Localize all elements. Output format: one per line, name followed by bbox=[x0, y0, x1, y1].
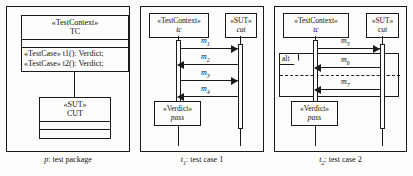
caption-text: : test package bbox=[48, 155, 92, 164]
message-label-m1: m1 bbox=[201, 36, 210, 45]
lifeline-stereotype: «SUT» bbox=[226, 16, 256, 25]
lifeline-stereotype: «SUT» bbox=[367, 16, 398, 25]
message-label-m3: m3 bbox=[201, 68, 210, 77]
class-box-testcontext-header: «TestContext» TC bbox=[22, 16, 128, 40]
message-label-m4: m4 bbox=[201, 84, 210, 93]
message-line-m5 bbox=[318, 48, 380, 49]
lifeline-stereotype: «TestContext» bbox=[284, 16, 348, 25]
caption-test-package: p: test package bbox=[6, 155, 130, 164]
verdict-value: pass bbox=[292, 113, 337, 122]
lifeline-name: tc bbox=[284, 25, 348, 34]
class-operations-compartment bbox=[40, 130, 110, 138]
class-name: TC bbox=[22, 27, 128, 36]
message-arrow-m7 bbox=[314, 86, 321, 94]
class-attributes-compartment bbox=[40, 122, 110, 130]
message-line-m3 bbox=[181, 80, 238, 81]
lifeline-name: tc bbox=[150, 25, 208, 34]
message-arrow-m6 bbox=[314, 64, 321, 72]
fragment-operator-label: alt bbox=[282, 54, 290, 64]
verdict-box: «Verdict» pass bbox=[291, 101, 338, 126]
panel-test-case-2: «TestContext» tc «SUT» cut m5 alt m6 m7 bbox=[274, 6, 407, 152]
uml-figure: «TestContext» TC «TestCase» t1(): Verdic… bbox=[0, 0, 413, 176]
class-name: CUT bbox=[40, 109, 110, 118]
class-attributes-compartment bbox=[22, 40, 128, 48]
class-stereotype: «TestContext» bbox=[22, 18, 128, 27]
panel-test-package: «TestContext» TC «TestCase» t1(): Verdic… bbox=[6, 6, 130, 152]
message-line-m1 bbox=[181, 48, 238, 49]
verdict-value: pass bbox=[155, 113, 200, 122]
class-operations-compartment: «TestCase» t1(): Verdict; «TestCase» t2(… bbox=[22, 48, 128, 71]
message-line-m2 bbox=[181, 64, 238, 65]
activation-bar-cut bbox=[380, 44, 385, 129]
lifeline-name: cut bbox=[367, 25, 398, 34]
class-stereotype: «SUT» bbox=[40, 100, 110, 109]
lifeline-stereotype: «TestContext» bbox=[150, 16, 208, 25]
lifeline-name: cut bbox=[226, 25, 256, 34]
verdict-stereotype: «Verdict» bbox=[292, 104, 337, 113]
caption-text: : test case 2 bbox=[325, 155, 362, 164]
class-box-sut-header: «SUT» CUT bbox=[40, 98, 110, 122]
panel-test-case-1: «TestContext» tc «SUT» cut m1 m2 m3 m4 «… bbox=[140, 6, 264, 152]
caption-test-case-1: t1: test case 1 bbox=[140, 155, 264, 164]
lifeline-head-tc: «TestContext» tc bbox=[283, 13, 349, 38]
message-label-m6: m6 bbox=[341, 55, 350, 64]
verdict-stereotype: «Verdict» bbox=[155, 104, 200, 113]
operation-t2: «TestCase» t2(): Verdict; bbox=[22, 59, 128, 69]
message-label-m7: m7 bbox=[341, 77, 350, 86]
lifeline-head-tc: «TestContext» tc bbox=[149, 13, 209, 38]
activation-bar-cut bbox=[238, 44, 243, 129]
verdict-box: «Verdict» pass bbox=[154, 101, 201, 126]
message-label-m2: m2 bbox=[201, 52, 210, 61]
caption-text: : test case 1 bbox=[186, 155, 223, 164]
message-line-m7 bbox=[318, 89, 380, 90]
association-connector bbox=[74, 72, 75, 97]
message-line-m4 bbox=[181, 96, 238, 97]
message-arrow-m5 bbox=[373, 45, 380, 53]
message-label-m5: m5 bbox=[341, 36, 350, 45]
message-arrow-m3 bbox=[231, 77, 238, 85]
message-arrow-m2 bbox=[177, 61, 184, 69]
caption-test-case-2: t2: test case 2 bbox=[274, 155, 407, 164]
class-box-sut: «SUT» CUT bbox=[39, 97, 111, 139]
message-line-m6 bbox=[318, 67, 380, 68]
lifeline-head-cut: «SUT» cut bbox=[225, 13, 257, 38]
class-box-testcontext: «TestContext» TC «TestCase» t1(): Verdic… bbox=[21, 15, 129, 72]
operation-t1: «TestCase» t1(): Verdict; bbox=[22, 49, 128, 59]
message-arrow-m4 bbox=[177, 93, 184, 101]
lifeline-head-cut: «SUT» cut bbox=[366, 13, 399, 38]
message-arrow-m1 bbox=[231, 45, 238, 53]
